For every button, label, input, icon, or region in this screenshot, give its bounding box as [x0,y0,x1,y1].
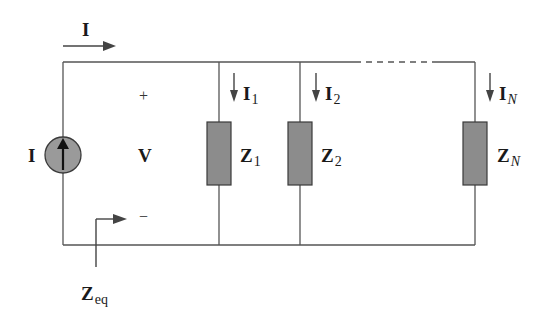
zeq-sub: eq [95,292,108,307]
z1-sub: 1 [254,154,261,169]
branch-current-arrow-n-icon [486,73,494,102]
impedance-label-2: Z2 [321,146,342,165]
i2-sub: 2 [333,92,340,107]
source-current-label: I [28,146,35,165]
voltage-plus-sign: + [139,88,148,104]
voltage-minus-sign: − [139,209,148,225]
total-current-arrow-icon [63,41,116,51]
wires [63,62,475,245]
zn-sub: N [511,154,520,169]
voltage-label: V [138,146,152,165]
i1-main: I [243,83,250,104]
i1-sub: 1 [251,92,258,107]
impedance-z2 [288,122,312,185]
zeq-pointer-arrow-icon [96,214,127,267]
impedance-zn [463,122,487,185]
impedance-label-1: Z1 [240,146,261,165]
impedance-z1 [207,122,231,185]
z2-sub: 2 [335,154,342,169]
branch-current-label-2: I2 [325,84,340,103]
zeq-main: Z [81,283,94,304]
in-main: I [499,83,506,104]
circuit-schematic [0,0,553,322]
branch-current-arrow-2-icon [312,73,320,102]
z2-main: Z [321,145,334,166]
in-sub: N [507,92,516,107]
equivalent-impedance-label: Zeq [81,284,108,303]
total-current-label: I [82,20,89,39]
branch-current-label-n: IN [499,84,517,103]
i2-main: I [325,83,332,104]
branch-current-arrow-1-icon [230,73,238,102]
z1-main: Z [240,145,253,166]
impedance-label-n: ZN [497,146,520,165]
branch-current-label-1: I1 [243,84,258,103]
zn-main: Z [497,145,510,166]
current-source-icon [45,137,81,173]
